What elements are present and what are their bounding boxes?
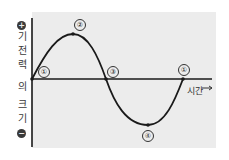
emf-sine-plot	[0, 0, 229, 160]
point-label-1-start: ①	[38, 66, 50, 78]
point-label-1-end: ①	[178, 64, 190, 76]
y-label-char: 의	[15, 81, 29, 93]
y-label-char: 기	[15, 31, 29, 43]
y-label-char: 전	[15, 45, 29, 57]
point-label-4-trough: ④	[142, 130, 154, 142]
point-marker-3-zero	[104, 77, 108, 81]
y-label-char: 크	[15, 99, 29, 111]
point-label-2-peak: ②	[74, 19, 86, 31]
negative-sign-icon: −	[17, 129, 26, 138]
positive-sign-icon: +	[17, 21, 26, 30]
point-label-3-zero: ③	[107, 66, 119, 78]
x-axis-label: 시간	[187, 84, 203, 97]
point-marker-1-start	[30, 77, 34, 81]
point-marker-4-trough	[146, 123, 150, 127]
point-marker-1-end	[181, 77, 185, 81]
y-label-char: 기	[15, 113, 29, 125]
y-label-char: 력	[15, 59, 29, 71]
point-marker-2-peak	[71, 32, 75, 36]
